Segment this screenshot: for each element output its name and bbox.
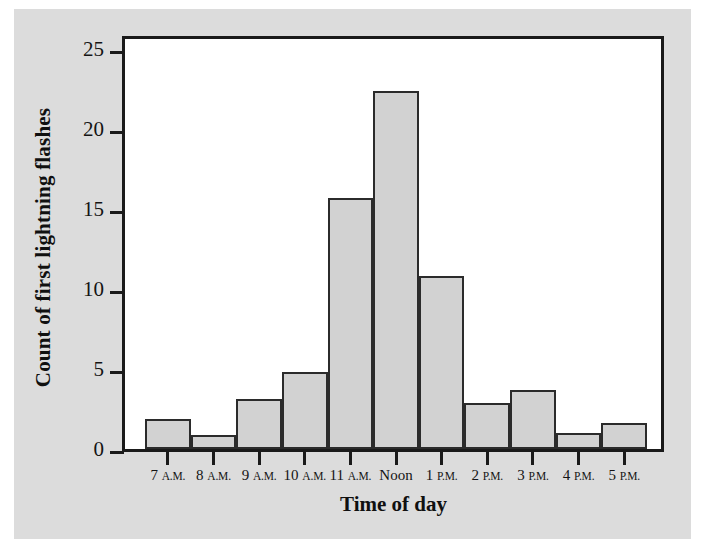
x-tick-meridiem: A.M. [162,470,185,482]
y-tick-label: 0 [40,439,104,460]
bar [282,372,328,449]
y-tick-label: 5 [40,359,104,380]
x-tick-meridiem: P.M. [437,470,457,482]
bar [464,403,510,449]
x-tick-hour: 8 [196,467,204,483]
bars-layer [125,39,661,449]
x-tick-meridiem: A.M. [253,470,276,482]
x-tick-meridiem: A.M. [302,470,325,482]
x-tick-mark [258,452,261,465]
bar [145,419,191,449]
y-tick-label: 10 [40,279,104,300]
x-tick-label: 11 A.M. [330,467,372,484]
x-tick-meridiem: A.M. [207,470,230,482]
bar [328,198,374,449]
y-tick-label: 15 [40,199,104,220]
x-tick-mark [303,452,306,465]
bar [191,435,237,449]
x-tick-mark [577,452,580,465]
x-tick-meridiem: P.M. [483,470,503,482]
x-tick-hour: 7 [150,467,158,483]
x-tick-label: 1 P.M. [426,467,458,484]
x-tick-mark [623,452,626,465]
bar [236,399,282,449]
x-tick-mark [486,452,489,465]
x-tick-mark [212,452,215,465]
x-tick-meridiem: P.M. [528,470,548,482]
x-tick-mark [395,452,398,465]
x-tick-label: 4 P.M. [563,467,595,484]
bar [373,91,419,449]
x-tick-hour: 2 [471,467,479,483]
x-tick-mark [349,452,352,465]
bar [601,423,647,449]
figure-container: Count of first lightning flashes 0510152… [0,0,705,553]
y-tick-label: 20 [40,119,104,140]
x-axis-title: Time of day [122,492,665,517]
x-tick-hour: 1 [426,467,434,483]
x-tick-meridiem: P.M. [574,470,594,482]
x-tick-label: 10 A.M. [284,467,326,484]
bar [556,433,602,449]
x-tick-meridiem: A.M. [348,470,371,482]
x-tick-label: Noon [379,467,412,484]
plot-area [122,36,664,452]
bar [510,390,556,449]
x-tick-mark [166,452,169,465]
bar [419,276,465,449]
x-tick-hour: Noon [379,467,412,483]
x-tick-label: 2 P.M. [471,467,503,484]
x-tick-hour: 11 [330,467,344,483]
x-tick-meridiem: P.M. [620,470,640,482]
x-tick-mark [440,452,443,465]
y-axis-ticks: 0510152025 [0,0,124,553]
x-tick-label: 8 A.M. [196,467,231,484]
x-tick-hour: 3 [517,467,525,483]
x-tick-hour: 9 [242,467,250,483]
x-tick-hour: 10 [284,467,299,483]
x-tick-hour: 5 [608,467,616,483]
x-tick-mark [531,452,534,465]
y-tick-label: 25 [40,39,104,60]
x-tick-label: 7 A.M. [150,467,185,484]
x-tick-label: 9 A.M. [242,467,277,484]
x-tick-label: 3 P.M. [517,467,549,484]
x-tick-hour: 4 [563,467,571,483]
x-tick-label: 5 P.M. [608,467,640,484]
